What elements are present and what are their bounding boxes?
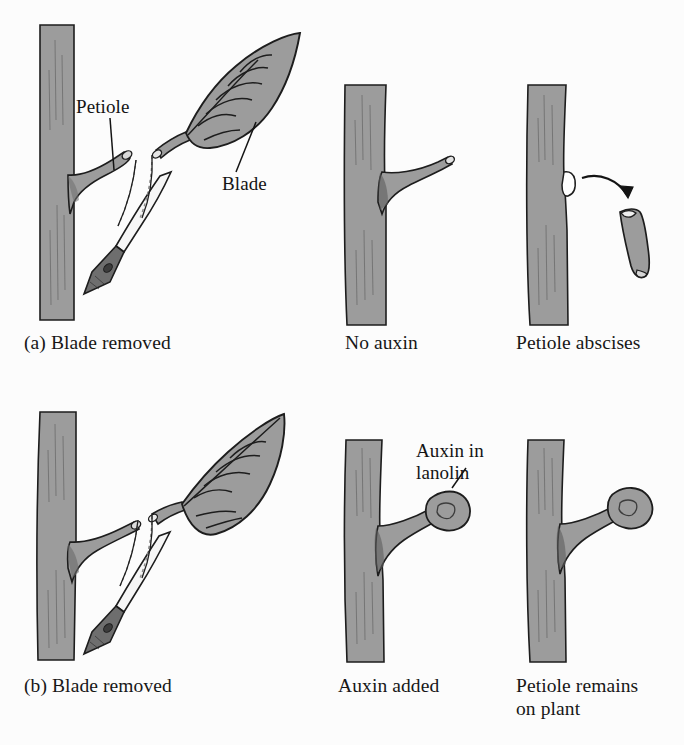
illustration-blade-removed-a [0, 0, 300, 330]
stem-shape [40, 25, 74, 320]
caption-blade-removed-a: (a) Blade removed [24, 331, 171, 354]
illustration-petiole-remains [500, 430, 684, 670]
panel-no-auxin [320, 0, 470, 330]
illustration-no-auxin [320, 0, 470, 330]
severed-petiole-segment [152, 502, 185, 524]
caption-blade-removed-b: (b) Blade removed [24, 674, 172, 697]
petiole-stub [378, 157, 452, 214]
label-blade: Blade [222, 173, 267, 195]
caption-auxin-added: Auxin added [338, 674, 439, 697]
abscission-scar [562, 172, 575, 196]
illustration-petiole-abscises [500, 0, 684, 330]
caption-no-auxin: No auxin [345, 331, 418, 354]
label-petiole: Petiole [76, 96, 129, 118]
panel-blade-removed-a: Petiole Blade [0, 0, 300, 330]
label-auxin-in-lanolin: Auxin in lanolin [416, 440, 484, 484]
panel-petiole-abscises [500, 0, 684, 330]
abscission-figure: Petiole Blade (a) Blade removed No auxin [0, 0, 684, 745]
petiole-stub [68, 522, 139, 582]
caption-petiole-abscises: Petiole abscises [516, 331, 641, 354]
leaf-blade-shape [186, 33, 300, 148]
lanolin-blob [426, 492, 470, 531]
petiole-stub [68, 152, 130, 214]
panel-blade-removed-b [0, 392, 300, 667]
panel-petiole-remains [500, 430, 684, 670]
detached-petiole [620, 209, 649, 278]
abscission-arrow-head [620, 186, 633, 198]
stem-shape [527, 85, 568, 325]
leaf-blade-shape [182, 414, 284, 535]
lanolin-blob [608, 488, 653, 529]
illustration-blade-removed-b [0, 392, 300, 667]
caption-petiole-remains: Petiole remains on plant [516, 674, 638, 720]
